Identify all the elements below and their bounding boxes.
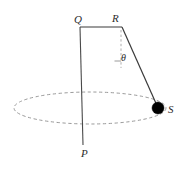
pendulum-bob: [152, 102, 164, 114]
conical-pendulum-figure: Q R S P θ: [0, 0, 183, 170]
vertex-label-r: R: [112, 13, 119, 24]
angle-label-theta: θ: [121, 53, 126, 63]
vertex-label-s: S: [168, 104, 174, 115]
string-RS-line: [122, 27, 157, 105]
vertical-axis-line: [80, 27, 83, 145]
vertex-label-q: Q: [74, 14, 82, 25]
figure-canvas: [0, 0, 183, 170]
vertex-label-p: P: [81, 148, 88, 159]
circular-path-ellipse: [14, 92, 166, 124]
